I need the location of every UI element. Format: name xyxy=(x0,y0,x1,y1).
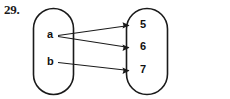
mapping-diagram-figure: 29. a b 5 6 7 xyxy=(0,0,230,99)
codomain-element-7: 7 xyxy=(140,64,146,75)
domain-element-a: a xyxy=(47,29,53,40)
codomain-set-outline xyxy=(127,9,168,95)
domain-element-b: b xyxy=(47,56,54,67)
domain-set-outline xyxy=(34,9,74,95)
codomain-element-6: 6 xyxy=(140,41,146,52)
diagram-canvas xyxy=(0,0,230,99)
codomain-element-5: 5 xyxy=(140,19,146,30)
